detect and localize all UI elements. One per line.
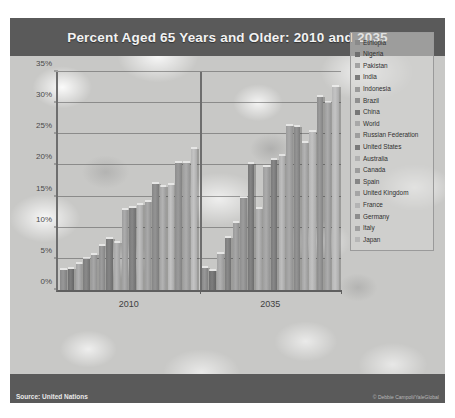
bar bbox=[248, 164, 254, 290]
legend-item-label: Spain bbox=[363, 179, 379, 185]
credit-note: © Debbie Campoli/YaleGlobal bbox=[373, 394, 439, 400]
legend-item-label: Germany bbox=[363, 214, 389, 220]
legend-item[interactable]: China bbox=[355, 107, 430, 119]
legend-swatch-icon bbox=[355, 110, 360, 115]
legend-item-label: Ethiopia bbox=[363, 40, 386, 46]
chart-screenshot: Percent Aged 65 Years and Older: 2010 an… bbox=[0, 0, 455, 418]
y-axis-tick-label: 35% bbox=[36, 59, 52, 68]
legend-swatch-icon bbox=[355, 121, 360, 126]
legend-item[interactable]: Nigeria bbox=[355, 49, 430, 61]
bar bbox=[91, 255, 97, 290]
bar bbox=[60, 270, 66, 290]
legend-item[interactable]: Brazil bbox=[355, 95, 430, 107]
y-axis-tick-label: 15% bbox=[36, 183, 52, 192]
legend-item[interactable]: Spain bbox=[355, 176, 430, 188]
bar bbox=[286, 126, 292, 290]
legend-item[interactable]: Russian Federation bbox=[355, 130, 430, 142]
x-axis-tick-mark bbox=[341, 290, 342, 294]
bar bbox=[240, 198, 246, 290]
bar bbox=[114, 243, 120, 290]
y-axis-tick-label: 0% bbox=[40, 277, 52, 286]
bar bbox=[99, 246, 105, 290]
y-axis-tick-label: 10% bbox=[36, 214, 52, 223]
legend-item-label: Australia bbox=[363, 156, 388, 162]
legend-swatch-icon bbox=[355, 156, 360, 161]
bar bbox=[191, 149, 197, 290]
bar bbox=[122, 210, 128, 290]
page-title: Percent Aged 65 Years and Older: 2010 an… bbox=[67, 30, 388, 45]
chart-legend: EthiopiaNigeriaPakistanIndiaIndonesiaBra… bbox=[350, 32, 434, 251]
x-axis-tick-label: 2010 bbox=[119, 299, 139, 309]
legend-item[interactable]: Italy bbox=[355, 223, 430, 235]
bar bbox=[160, 187, 166, 290]
bar bbox=[279, 156, 285, 290]
bar bbox=[106, 239, 112, 290]
legend-item[interactable]: United States bbox=[355, 141, 430, 153]
legend-item[interactable]: Germany bbox=[355, 211, 430, 223]
legend-swatch-icon bbox=[355, 75, 360, 80]
legend-item[interactable]: Australia bbox=[355, 153, 430, 165]
bar bbox=[209, 271, 215, 290]
bar bbox=[83, 259, 89, 290]
chart-footer-bar: Source: United Nations © Debbie Campoli/… bbox=[10, 374, 445, 403]
legend-swatch-icon bbox=[355, 145, 360, 150]
legend-item[interactable]: Canada bbox=[355, 165, 430, 177]
plot-area: 0%5%10%15%20%25%30%35% 20102035 bbox=[56, 72, 341, 292]
source-note: Source: United Nations bbox=[16, 393, 88, 400]
bar bbox=[68, 269, 74, 290]
legend-item[interactable]: United Kingdom bbox=[355, 188, 430, 200]
bar bbox=[225, 238, 231, 290]
legend-item-label: Russian Federation bbox=[363, 132, 418, 138]
legend-item[interactable]: Indonesia bbox=[355, 83, 430, 95]
legend-swatch-icon bbox=[355, 40, 360, 45]
legend-swatch-icon bbox=[355, 98, 360, 103]
bar bbox=[145, 202, 151, 290]
bar bbox=[233, 223, 239, 290]
bar bbox=[129, 208, 135, 290]
bar bbox=[317, 97, 323, 290]
legend-item[interactable]: France bbox=[355, 199, 430, 211]
bar bbox=[217, 254, 223, 290]
legend-item-label: Nigeria bbox=[363, 51, 383, 57]
bar bbox=[263, 167, 269, 290]
legend-item[interactable]: Japan bbox=[355, 234, 430, 246]
bar bbox=[137, 205, 143, 290]
legend-item-label: India bbox=[363, 74, 377, 80]
y-axis-tick-label: 20% bbox=[36, 152, 52, 161]
legend-swatch-icon bbox=[355, 214, 360, 219]
legend-swatch-icon bbox=[355, 237, 360, 242]
bar bbox=[325, 103, 331, 290]
legend-item-label: China bbox=[363, 109, 380, 115]
legend-swatch-icon bbox=[355, 226, 360, 231]
legend-swatch-icon bbox=[355, 52, 360, 57]
legend-item[interactable]: Pakistan bbox=[355, 60, 430, 72]
bar bbox=[168, 185, 174, 290]
x-axis-tick-label: 2035 bbox=[260, 299, 280, 309]
bar bbox=[202, 268, 208, 290]
legend-swatch-icon bbox=[355, 63, 360, 68]
bar bbox=[302, 143, 308, 290]
y-axis-tick-label: 5% bbox=[40, 245, 52, 254]
x-axis-tick-mark bbox=[200, 290, 201, 294]
bar bbox=[309, 132, 315, 290]
legend-swatch-icon bbox=[355, 133, 360, 138]
bar bbox=[294, 127, 300, 290]
y-axis-tick-label: 30% bbox=[36, 90, 52, 99]
legend-item[interactable]: Ethiopia bbox=[355, 37, 430, 49]
bar bbox=[256, 209, 262, 290]
bar-side-shadow bbox=[339, 87, 341, 290]
legend-item-label: Japan bbox=[363, 237, 380, 243]
bar bbox=[183, 163, 189, 290]
legend-item-label: Italy bbox=[363, 225, 375, 231]
legend-swatch-icon bbox=[355, 191, 360, 196]
bar bbox=[332, 87, 338, 290]
legend-item-label: Brazil bbox=[363, 98, 379, 104]
legend-item[interactable]: World bbox=[355, 118, 430, 130]
legend-item-label: France bbox=[363, 202, 383, 208]
legend-item[interactable]: India bbox=[355, 72, 430, 84]
bar bbox=[175, 163, 181, 290]
legend-item-label: United States bbox=[363, 144, 401, 150]
group-separator bbox=[200, 72, 202, 290]
chart-figure: Percent Aged 65 Years and Older: 2010 an… bbox=[10, 18, 445, 403]
legend-item-label: Canada bbox=[363, 167, 385, 173]
